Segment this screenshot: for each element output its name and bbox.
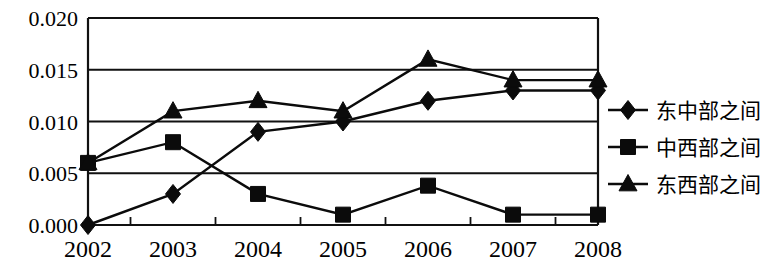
x-axis-tick-label: 2002 bbox=[64, 236, 112, 262]
square-marker-icon bbox=[336, 207, 351, 222]
x-axis-tick-label: 2005 bbox=[319, 236, 367, 262]
y-axis-tick-label: 0.000 bbox=[29, 213, 79, 238]
legend-item-label: 东中部之间 bbox=[656, 99, 761, 123]
square-marker-icon bbox=[251, 186, 266, 201]
y-axis-tick-label: 0.015 bbox=[29, 58, 79, 83]
y-axis-tick-label: 0.005 bbox=[29, 161, 79, 186]
x-axis-tick-label: 2007 bbox=[489, 236, 537, 262]
chart-background bbox=[0, 0, 761, 266]
line-chart: 0.0200.0150.0100.0050.000 20022003200420… bbox=[0, 0, 761, 266]
chart-figure: 0.0200.0150.0100.0050.000 20022003200420… bbox=[0, 0, 761, 266]
square-marker-icon bbox=[506, 207, 521, 222]
square-marker-icon bbox=[591, 207, 606, 222]
square-marker-icon bbox=[421, 178, 436, 193]
square-marker-icon bbox=[621, 140, 636, 155]
chart-legend: 东中部之间中西部之间东西部之间 bbox=[608, 99, 761, 197]
y-axis-tick-label: 0.020 bbox=[29, 6, 79, 31]
x-axis-tick-label: 2008 bbox=[574, 236, 622, 262]
legend-item-label: 东西部之间 bbox=[656, 173, 761, 197]
x-axis-tick-label: 2006 bbox=[404, 236, 452, 262]
y-axis-tick-label: 0.010 bbox=[29, 110, 79, 135]
legend-item-label: 中西部之间 bbox=[656, 136, 761, 160]
square-marker-icon bbox=[166, 135, 181, 150]
x-axis-tick-label: 2003 bbox=[149, 236, 197, 262]
x-axis-tick-label: 2004 bbox=[234, 236, 282, 262]
